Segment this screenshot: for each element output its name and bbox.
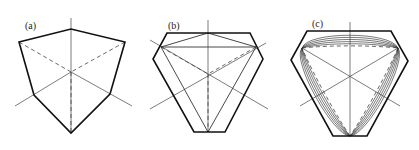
polyhedron-outline: [19, 29, 125, 133]
diagonal-axis-line: [302, 48, 400, 106]
panel-c-geometry: [291, 22, 408, 136]
diagonal-axis-line: [71, 72, 132, 106]
chord-line: [208, 33, 256, 47]
diagonal-axis-line: [15, 72, 71, 106]
polyhedron-projection-figure: (a) (b) (c): [0, 0, 419, 150]
panel-c-label: (c): [312, 18, 323, 30]
inscribed-triangle: [161, 47, 256, 132]
diagonal-axis-line: [300, 48, 398, 106]
panel-a: (a): [15, 18, 132, 133]
panel-c: (c): [291, 18, 408, 136]
panel-b-geometry: [150, 20, 268, 132]
panel-b: (b): [150, 20, 268, 132]
panel-a-label: (a): [25, 20, 36, 32]
panel-a-geometry: [15, 18, 132, 133]
chord-line: [161, 33, 208, 47]
panel-b-label: (b): [168, 20, 180, 32]
